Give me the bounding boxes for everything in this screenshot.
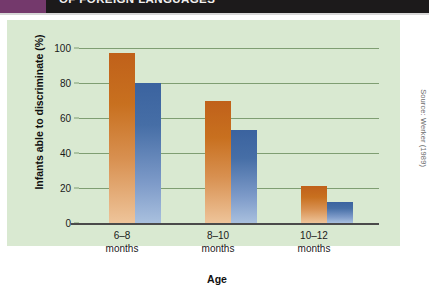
- x-tick-label-0-line2: months: [74, 243, 170, 256]
- y-axis-title: Infants able to discriminate (%): [33, 32, 45, 192]
- header-accent-block: [0, 0, 46, 13]
- tick-mark-80: [74, 83, 79, 84]
- plot-area: 0 20 40 60 80 100: [79, 48, 379, 223]
- bar-series1-cat0: [135, 83, 161, 223]
- tick-mark-40: [74, 153, 79, 154]
- gridline-100: 100: [79, 48, 379, 49]
- page-title: OF FOREIGN LANGUAGES: [59, 0, 215, 5]
- x-tick-label-1: 8–10 months: [170, 230, 266, 255]
- figure-container: Infants able to discriminate (%) 0 20 40…: [0, 15, 429, 286]
- y-tick-label-60: 60: [60, 113, 71, 124]
- y-tick-label-40: 40: [60, 148, 71, 159]
- x-axis-title: Age: [67, 273, 367, 285]
- y-tick-label-80: 80: [60, 78, 71, 89]
- x-tick-label-2: 10–12 months: [266, 230, 362, 255]
- bar-series1-cat1: [231, 130, 257, 223]
- x-axis-baseline: [71, 223, 379, 225]
- y-tick-label-20: 20: [60, 183, 71, 194]
- x-tick-label-2-line2: months: [266, 243, 362, 256]
- y-tick-label-100: 100: [54, 43, 71, 54]
- x-tick-label-0-line1: 6–8: [74, 230, 170, 243]
- tick-mark-20: [74, 188, 79, 189]
- bar-series0-cat1: [205, 101, 231, 224]
- x-tick-label-2-line1: 10–12: [266, 230, 362, 243]
- page-header-band: OF FOREIGN LANGUAGES: [0, 0, 429, 13]
- bar-series0-cat0: [109, 53, 135, 223]
- x-tick-label-0: 6–8 months: [74, 230, 170, 255]
- x-tick-label-1-line2: months: [170, 243, 266, 256]
- tick-mark-60: [74, 118, 79, 119]
- source-credit: Source: Werker (1989): [419, 89, 428, 167]
- bar-series0-cat2: [301, 186, 327, 223]
- x-tick-label-1-line1: 8–10: [170, 230, 266, 243]
- tick-mark-100: [74, 48, 79, 49]
- chart-panel: Infants able to discriminate (%) 0 20 40…: [7, 20, 400, 246]
- bar-series1-cat2: [327, 202, 353, 223]
